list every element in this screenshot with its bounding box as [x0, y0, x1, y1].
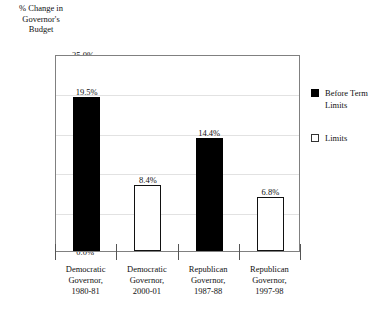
legend-item-after-term-limits: Limits — [311, 133, 389, 145]
category-separator — [300, 244, 301, 260]
bar-3[interactable] — [196, 138, 223, 251]
legend-label-before-line-1: Before Term — [325, 88, 389, 100]
bar-value-label: 19.5% — [67, 88, 107, 97]
plot-area: 19.5%8.4%14.4%6.8% — [55, 55, 300, 252]
legend-swatch-hollow-icon — [311, 134, 319, 142]
category-separator — [239, 244, 240, 260]
bar-value-label: 6.8% — [250, 188, 290, 197]
legend-label-after-line-2: Limits — [325, 133, 389, 145]
category-separator — [178, 244, 179, 260]
bar-value-label: 8.4% — [128, 176, 168, 185]
category-separator — [55, 244, 56, 260]
legend-label-before-line-2: Limits — [325, 100, 389, 112]
legend-swatch-filled-icon — [311, 89, 319, 97]
legend-label-before: Before Term Limits — [325, 88, 389, 111]
category-separator — [116, 244, 117, 260]
legend-label-after: Limits — [325, 133, 389, 145]
chart-figure: % Change in Governor's Budget 25.0% 20.0… — [0, 0, 391, 320]
bar-value-label: 14.4% — [189, 129, 229, 138]
category-label-line: Governor, — [234, 275, 305, 286]
category-label-line: Republican — [234, 264, 305, 275]
category-label-line: 1997-98 — [234, 286, 305, 297]
bar-1[interactable] — [73, 97, 100, 251]
category-label-4: RepublicanGovernor,1997-98 — [234, 264, 305, 297]
chart-legend: Before Term Limits Limits — [311, 88, 389, 167]
legend-item-before-term-limits: Before Term Limits — [311, 88, 389, 111]
bar-series: 19.5%8.4%14.4%6.8% — [56, 56, 299, 251]
bar-4[interactable] — [257, 197, 284, 251]
bar-2[interactable] — [134, 185, 161, 251]
